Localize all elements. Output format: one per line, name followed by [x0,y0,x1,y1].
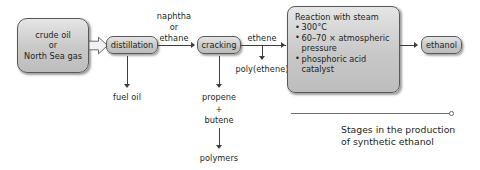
connector-distillation-cracking [158,45,192,46]
output-plus-sign: + [216,104,223,115]
arrowhead-reaction-icon [281,42,285,48]
output-fuel-oil: fuel oil [113,92,141,103]
source-line-2: or [49,40,57,50]
edge-label-naphtha: naphtha [157,11,191,22]
connector-cracking-propene [219,56,220,85]
source-line-1: crude oil [35,30,70,40]
cracking-label: cracking [202,40,237,50]
connector-butene-polymers [219,128,220,146]
output-propene: propene [202,92,236,103]
ethanol-label: ethanol [426,40,457,50]
edge-label-ethene: ethene [247,33,276,44]
arrowhead-polymers-icon [216,145,222,149]
output-butene: butene [204,115,233,126]
reaction-bullet-catalyst: phosphoric acid [295,54,366,64]
reaction-bullet-pressure-cont: pressure [295,43,337,53]
node-distillation: distillation [106,36,158,54]
caption-rule [291,113,451,114]
output-poly-ethene: poly(ethene) [235,64,288,75]
source-line-3: North Sea gas [24,51,82,61]
reaction-bullet-catalyst-cont: catalyst [295,64,334,74]
node-cracking: cracking [197,36,241,54]
edge-label-ethane: ethane [160,33,189,44]
reaction-bullet-pressure: 60–70 × atmospheric [295,33,390,43]
node-reaction-with-steam: Reaction with steam 300°C 60–70 × atmosp… [287,6,400,93]
reaction-heading: Reaction with steam [295,12,379,22]
arrowhead-fuel-oil-icon [124,84,130,88]
distillation-label: distillation [111,40,153,50]
node-crude-oil-source: crude oil or North Sea gas [17,18,89,73]
arrowhead-ethanol-icon [414,42,418,48]
caption-text: Stages in the production of synthetic et… [341,124,455,148]
connector-cracking-reaction [241,45,286,46]
diagram-canvas: crude oil or North Sea gas distillation … [0,0,480,170]
edge-label-or: or [170,22,178,33]
connector-distillation-fuel-oil [127,56,128,85]
node-ethanol: ethanol [421,36,462,54]
arrowhead-polyethene-icon [259,56,265,60]
arrowhead-cracking-icon [191,42,195,48]
arrowhead-propene-icon [216,84,222,88]
caption-end-dot-icon [449,111,454,116]
output-polymers: polymers [200,153,238,164]
reaction-bullet-temperature: 300°C [295,22,327,32]
